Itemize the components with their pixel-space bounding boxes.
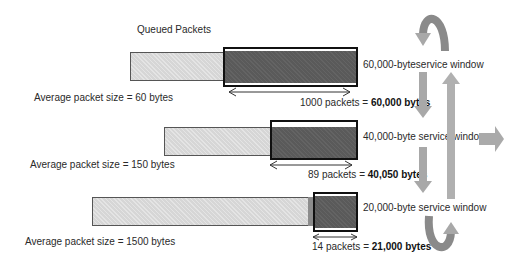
down-arrow-1-icon — [414, 72, 432, 118]
down-arrow-2-icon — [414, 147, 432, 193]
span-arrow-row3 — [313, 234, 357, 240]
span-arrow-row1 — [229, 88, 350, 96]
flow-arrows-layer — [0, 0, 529, 274]
output-right-arrow-icon — [479, 126, 504, 152]
span-arrow-row2 — [270, 161, 352, 169]
loop-arrow-top-icon — [415, 11, 445, 51]
up-arrow-long-icon — [442, 72, 460, 199]
loop-arrow-bottom-icon — [429, 216, 459, 247]
